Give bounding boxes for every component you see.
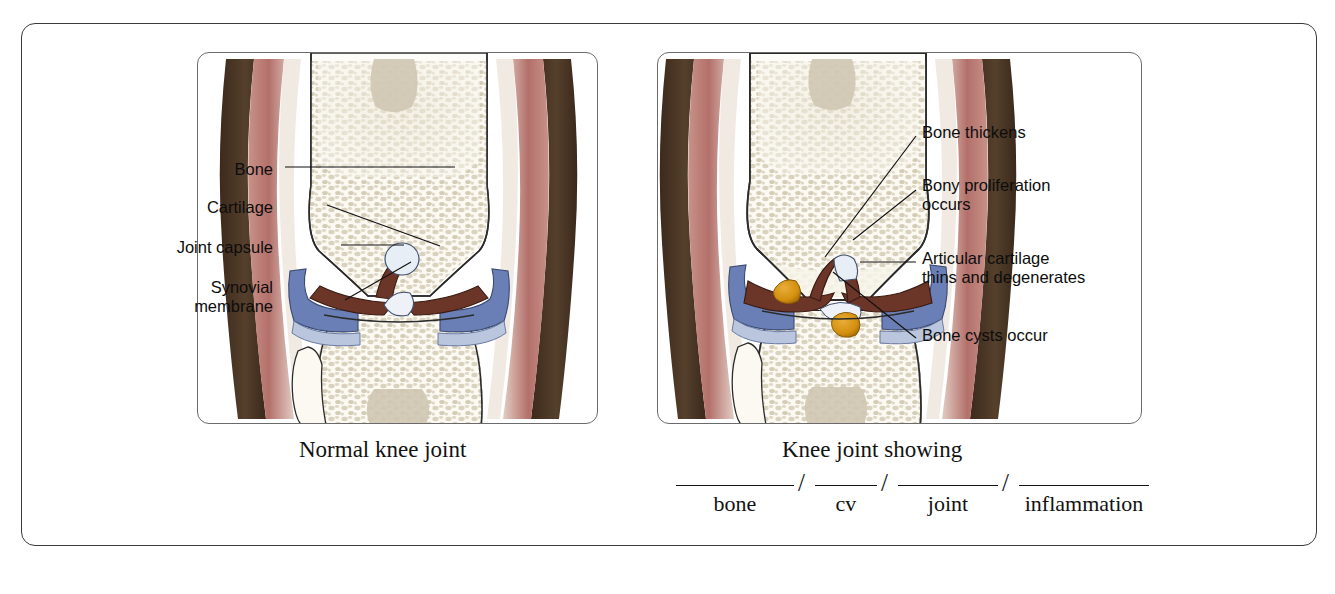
- bone-cyst-lower-center: [832, 312, 861, 337]
- label-synovial-membrane-line1: Synovial: [211, 278, 273, 297]
- label-bony-proliferation-line2: occurs: [922, 195, 971, 214]
- blank-cv-word: cv: [815, 491, 877, 517]
- label-joint-capsule: Joint capsule: [177, 238, 273, 257]
- panel-osteoarthritic-knee: [657, 52, 1142, 424]
- blank-joint-word: joint: [898, 491, 998, 517]
- blank-separator-2: /: [881, 469, 888, 497]
- blank-cv-line[interactable]: [815, 485, 877, 486]
- osteoarthritic-knee-illustration: [658, 53, 1142, 424]
- label-bone: Bone: [234, 160, 273, 179]
- label-bone-thickens: Bone thickens: [922, 123, 1026, 142]
- caption-osteoarthritic-knee: Knee joint showing: [782, 437, 962, 463]
- blank-joint-line[interactable]: [898, 485, 998, 486]
- label-articular-cartilage-line2: thins and degenerates: [922, 268, 1085, 287]
- label-bony-proliferation-line1: Bony proliferation: [922, 176, 1050, 195]
- blank-bone-line[interactable]: [676, 485, 794, 486]
- bone-cyst-upper-left: [774, 280, 801, 304]
- blank-bone-word: bone: [676, 491, 794, 517]
- caption-normal-knee: Normal knee joint: [299, 437, 466, 463]
- patella-cross-section: [385, 243, 419, 275]
- blank-inflammation-line[interactable]: [1019, 485, 1149, 486]
- blank-separator-1: /: [798, 469, 805, 497]
- blank-inflammation-word: inflammation: [1019, 491, 1149, 517]
- label-synovial-membrane-line2: membrane: [194, 297, 273, 316]
- blank-separator-3: /: [1002, 469, 1009, 497]
- fill-in-blank-row: bone / cv / joint / inflammation: [676, 485, 1096, 535]
- label-cartilage: Cartilage: [207, 198, 273, 217]
- label-articular-cartilage-line1: Articular cartilage: [922, 249, 1049, 268]
- label-bone-cysts-occur: Bone cysts occur: [922, 326, 1048, 345]
